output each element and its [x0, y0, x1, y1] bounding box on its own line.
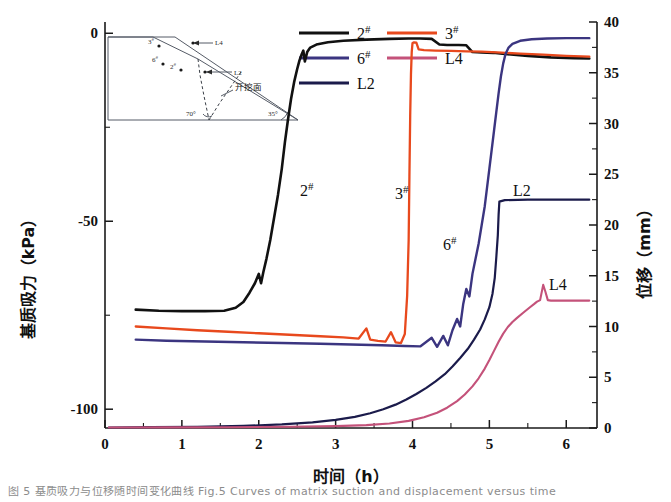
- right-axis-tick-labels: 0510152025303540: [604, 14, 619, 436]
- inset-slope-surface: [108, 37, 298, 120]
- inset-sensor-dot-2: [179, 68, 182, 71]
- chart-legend: 2#3#6#L4L2: [299, 23, 463, 92]
- right-axis-title: 位移（mm）: [635, 201, 654, 298]
- figure-caption-strip: 图 5 基质吸力与位移随时间变化曲线 Fig.5 Curves of matri…: [0, 486, 671, 502]
- inset-sensor-dot-3: [157, 44, 160, 47]
- left-tick-label: 0: [91, 25, 99, 41]
- right-tick-label: 35: [604, 65, 619, 81]
- left-axis-title: 基质吸力（kPa）: [19, 211, 38, 341]
- inset-label-excavation-face: 开挖面: [235, 82, 262, 92]
- x-tick-label: 4: [409, 436, 417, 452]
- x-tick-label: 2: [255, 436, 263, 452]
- legend-label-L4[interactable]: L4: [445, 50, 463, 67]
- inplot-label-6hash: 6#: [443, 234, 457, 253]
- right-tick-label: 20: [604, 217, 619, 233]
- legend-label-L2[interactable]: L2: [357, 75, 375, 92]
- inset-sensor-dot-6: [161, 62, 164, 65]
- figure-caption: 图 5 基质吸力与位移随时间变化曲线 Fig.5 Curves of matri…: [8, 486, 556, 498]
- x-tick-label: 5: [486, 436, 494, 452]
- inset-slip-surface-dash: [198, 59, 209, 120]
- inset-leader-face: [221, 90, 233, 96]
- left-axis-ticks: [105, 33, 113, 409]
- inplot-label-2hash: 2#: [300, 180, 314, 199]
- right-tick-label: 30: [604, 116, 619, 132]
- inplot-label-L4: L4: [549, 276, 567, 293]
- right-tick-label: 15: [604, 268, 619, 284]
- inset-slope-outline: [108, 37, 298, 120]
- right-axis-ticks: [589, 22, 597, 428]
- x-tick-label: 3: [332, 436, 340, 452]
- legend-label-6[interactable]: 6#: [357, 48, 371, 67]
- x-tick-label: 6: [563, 436, 571, 452]
- inset-label-sensor-6: 6#: [152, 55, 159, 64]
- inset-arrow-l4: [193, 41, 199, 46]
- inset-label-angle-35: 35°: [268, 110, 278, 118]
- series-curve-L2: [109, 200, 589, 428]
- right-tick-label: 0: [604, 420, 612, 436]
- inplot-series-labels: 2#3#6#L2L4: [300, 180, 567, 293]
- series-curve-L4: [109, 285, 589, 428]
- inset-label-l2: L2: [234, 69, 242, 77]
- inplot-label-L2: L2: [513, 182, 531, 199]
- left-tick-label: -50: [78, 213, 98, 229]
- x-tick-label: 1: [178, 436, 186, 452]
- inplot-label-3hash: 3#: [395, 183, 409, 202]
- inset-slope-diagram: 3#6#2#L4L2开挖面70°35°: [108, 37, 298, 120]
- x-tick-label: 0: [101, 436, 109, 452]
- inset-excavation-face-dash: [209, 72, 241, 120]
- left-tick-label: -100: [71, 401, 99, 417]
- x-axis-tick-labels: 0123456: [101, 436, 570, 452]
- figure-container: -100-500 0510152025303540 0123456 基质吸力（k…: [0, 0, 671, 502]
- right-tick-label: 40: [604, 14, 619, 30]
- inset-arrow-l2: [206, 70, 212, 75]
- inset-text-labels: 3#6#2#L4L2开挖面70°35°: [148, 37, 278, 118]
- right-tick-label: 5: [604, 369, 612, 385]
- x-axis-title: 时间（h）: [313, 467, 388, 486]
- inset-label-l4: L4: [215, 39, 223, 47]
- chart-series-group: [109, 38, 589, 427]
- inset-label-sensor-2: 2#: [170, 62, 177, 71]
- right-tick-label: 25: [604, 166, 619, 182]
- legend-label-3[interactable]: 3#: [445, 23, 459, 42]
- axes-group: [105, 22, 597, 428]
- left-axis-tick-labels: -100-500: [71, 25, 99, 417]
- right-tick-label: 10: [604, 319, 619, 335]
- matric-suction-displacement-chart: -100-500 0510152025303540 0123456 基质吸力（k…: [0, 0, 671, 502]
- inset-label-sensor-3: 3#: [148, 37, 155, 46]
- inset-label-angle-70: 70°: [186, 110, 196, 118]
